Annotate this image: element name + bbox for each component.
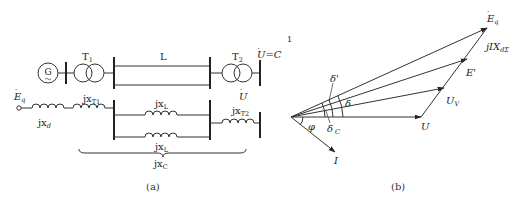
power-system-diagram: G T1 L T2 U=C · 1 Eq · <box>0 0 518 211</box>
infinite-bus-voltage-label: U=C <box>257 49 282 60</box>
u-label: U <box>421 121 430 132</box>
generator-label: G <box>44 67 51 77</box>
t1-label: T1 <box>82 51 93 64</box>
delta-prime-label: δ' <box>330 73 339 84</box>
inductor-xd <box>32 104 64 108</box>
delta-label: δ <box>345 98 351 109</box>
drop-label: jIXdΣ <box>484 41 509 54</box>
line-label: L <box>160 51 167 62</box>
xd-label: jxd <box>37 117 51 130</box>
dot-accent: · <box>240 86 242 94</box>
uv-label: UV <box>446 95 460 108</box>
source-terminal <box>17 106 21 110</box>
dot-accent: · <box>15 86 17 94</box>
generator-symbol: G <box>38 63 58 83</box>
dot-accent: · <box>258 45 260 53</box>
inductor-xl-top <box>145 111 177 115</box>
phasor-e-prime <box>291 59 467 117</box>
arc-delta-prime <box>329 100 333 117</box>
arc-delta <box>338 96 343 117</box>
arc-delta-c <box>322 103 325 117</box>
delta-c-label: δC <box>327 123 340 136</box>
single-line-diagram: G T1 L T2 U=C · 1 <box>38 35 292 89</box>
t2-label: T2 <box>232 51 243 64</box>
xc-label: jxC <box>153 158 168 171</box>
xt2-label: jxT2 <box>231 105 249 118</box>
equivalent-circuit: Eq · jxd jxT1 jxL jxL jxT2 U · jxC <box>13 86 260 171</box>
phasor-diagram: Eq · jIXdΣ E' UV U I δ δ' δC φ <box>291 8 509 166</box>
inductor-xt2 <box>222 119 254 123</box>
inductor-xl-bottom <box>145 133 177 137</box>
dot-accent: · <box>487 8 489 16</box>
caption-a: (a) <box>146 181 160 192</box>
i-label: I <box>333 155 339 166</box>
footnote-marker: 1 <box>287 35 292 44</box>
arc-phi <box>300 117 303 125</box>
transformer-t1-symbol <box>74 64 104 82</box>
e-prime-label: E' <box>465 67 476 78</box>
transformer-t2-symbol <box>222 64 252 82</box>
caption-b: (b) <box>391 181 405 192</box>
phi-label: φ <box>308 121 315 132</box>
xl-bottom-label: jxL <box>154 141 169 154</box>
phasor-uv <box>291 88 444 117</box>
xl-top-label: jxL <box>154 98 169 111</box>
